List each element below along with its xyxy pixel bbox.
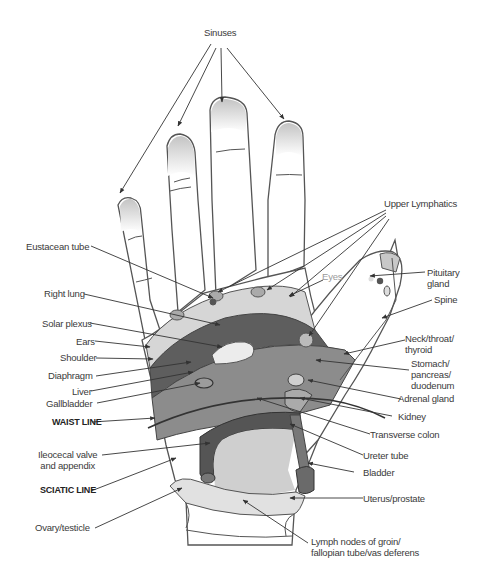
label-transverse-colon: Transverse colon xyxy=(370,429,439,440)
adrenal-gland-area xyxy=(288,374,304,386)
label-ureter-tube: Ureter tube xyxy=(363,450,408,461)
bladder-area xyxy=(296,467,314,494)
label-liver: Liver xyxy=(72,386,92,397)
label-spine: Spine xyxy=(434,294,457,305)
label-diaphragm: Diaphragm xyxy=(48,370,93,381)
label-eustacean-tube: Eustacean tube xyxy=(26,241,89,252)
label-adrenal-gland: Adrenal gland xyxy=(398,393,454,404)
ileocecal-area xyxy=(201,473,215,483)
label-eyes: Eyes xyxy=(322,271,342,282)
label-sinuses: Sinuses xyxy=(204,27,236,38)
label-bladder: Bladder xyxy=(363,467,394,478)
label-shoulder: Shoulder xyxy=(60,352,96,363)
label-waist-line: WAIST LINE xyxy=(52,417,102,428)
label-ovary-testicle: Ovary/testicle xyxy=(35,522,90,533)
label-upper-lymphatics: Upper Lymphatics xyxy=(384,198,457,209)
label-neck-throat-thyroid: Neck/throat/ thyroid xyxy=(405,333,454,355)
lower-palm-area xyxy=(214,429,296,495)
label-ears: Ears xyxy=(76,336,95,347)
label-right-lung: Right lung xyxy=(44,288,85,299)
label-solar-plexus: Solar plexus xyxy=(42,318,92,329)
label-stomach-pancreas-duodenum: Stomach/ pancreas/ duodenum xyxy=(411,358,454,391)
label-lymph-nodes: Lymph nodes of groin/ fallopian tube/vas… xyxy=(311,536,419,558)
label-ileocecal-valve: Ileocecal valve and appendix xyxy=(38,449,97,471)
label-kidney: Kidney xyxy=(398,411,426,422)
label-gallbladder: Gallbladder xyxy=(46,398,92,409)
label-uterus-prostate: Uterus/prostate xyxy=(363,493,425,504)
label-pituitary-gland: Pituitary gland xyxy=(427,267,460,289)
label-sciatic-line: SCIATIC LINE xyxy=(40,485,96,496)
